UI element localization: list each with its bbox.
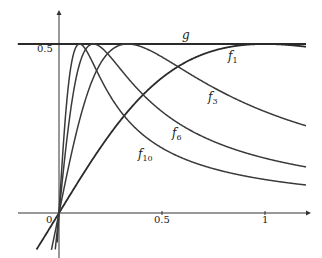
label-f3: f3 xyxy=(207,90,218,106)
label-f10: f10 xyxy=(137,147,153,163)
label-f6: f6 xyxy=(171,126,182,142)
x-tick-label-zero: 0 xyxy=(46,214,52,225)
x-tick-label-half: 0.5 xyxy=(154,214,170,225)
x-tick-label-one: 1 xyxy=(262,214,268,225)
function-sequence-plot: 0.5 0 0.5 1 g f1 f3 f6 f10 xyxy=(0,0,322,258)
y-tick-label-half: 0.5 xyxy=(37,43,53,54)
curve-f6 xyxy=(55,44,306,249)
y-axis-arrow-icon xyxy=(57,10,62,15)
label-f1: f1 xyxy=(227,49,238,65)
label-g: g xyxy=(182,28,190,42)
x-axis-arrow-icon xyxy=(306,211,311,216)
